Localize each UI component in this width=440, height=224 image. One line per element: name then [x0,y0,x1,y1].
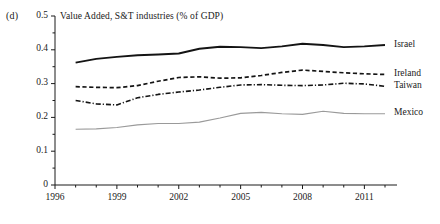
y-tick-label: 0.1 [18,145,48,155]
plot-area [0,0,440,224]
legend-label-ireland: Ireland [394,68,421,78]
legend-label-mexico: Mexico [394,107,423,117]
series-line-ireland [76,70,385,88]
legend-label-israel: Israel [394,39,415,49]
y-tick-label: 0 [18,179,48,189]
series-line-mexico [76,111,385,129]
legend-label-taiwan: Taiwan [394,80,422,90]
series-line-taiwan [76,83,385,105]
series-line-israel [76,44,385,63]
y-tick-label: 0.3 [18,77,48,87]
axes [51,16,397,189]
series-lines [76,44,385,130]
y-tick-label: 0.2 [18,111,48,121]
x-tick-label: 2011 [344,192,384,202]
x-tick-label: 2005 [221,192,261,202]
chart-figure: (d) Value Added, S&T industries (% of GD… [0,0,440,224]
x-tick-label: 2008 [283,192,323,202]
x-tick-label: 1996 [35,192,75,202]
x-tick-label: 2002 [159,192,199,202]
y-tick-label: 0.4 [18,43,48,53]
x-tick-label: 1999 [97,192,137,202]
y-tick-label: 0.5 [18,10,48,20]
